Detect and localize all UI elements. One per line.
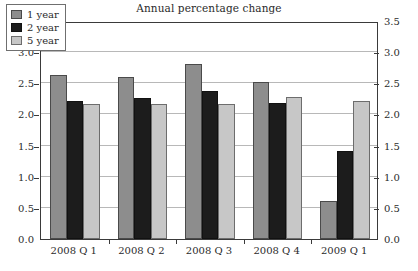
y-axis-tick-mark-right: [374, 84, 379, 85]
y-axis-tick-mark-left: [34, 147, 39, 148]
plot-top-border: [41, 22, 377, 23]
bar: [151, 104, 168, 239]
y-axis-tick-label-right: 2.0: [384, 110, 418, 120]
legend-item: 2 year: [11, 21, 59, 34]
plot-area: [40, 22, 378, 240]
legend-swatch-icon: [11, 10, 22, 19]
bar: [286, 97, 303, 239]
x-axis-category-label: 2008 Q 4: [243, 246, 311, 256]
gridline: [41, 82, 377, 83]
bar: [83, 104, 100, 239]
y-axis-tick-mark-left: [34, 209, 39, 210]
x-axis-tick-mark: [244, 239, 245, 244]
y-axis-tick-label-left: 0.5: [0, 204, 34, 214]
y-axis-tick-label-right: 0.0: [384, 235, 418, 245]
y-axis-tick-mark-right: [374, 115, 379, 116]
x-axis-category-label: 2008 Q 2: [108, 246, 176, 256]
legend-label: 1 year: [27, 10, 59, 20]
bar: [185, 64, 202, 239]
bar: [253, 82, 270, 239]
chart-legend: 1 year 2 year 5 year: [6, 4, 66, 51]
y-axis-tick-mark-left: [34, 115, 39, 116]
bar: [337, 151, 354, 239]
x-axis-category-label: 2009 Q 1: [310, 246, 378, 256]
bar: [202, 91, 219, 239]
gridline: [41, 51, 377, 52]
legend-label: 5 year: [27, 36, 59, 46]
legend-label: 2 year: [27, 23, 59, 33]
y-axis-tick-mark-right: [374, 147, 379, 148]
bar: [320, 201, 337, 239]
bar-chart: Annual percentage change 0.00.51.01.52.0…: [0, 0, 418, 271]
y-axis-tick-mark-right: [374, 209, 379, 210]
legend-swatch-icon: [11, 36, 22, 45]
x-axis-tick-mark: [311, 239, 312, 244]
y-axis-tick-label-left: 2.5: [0, 79, 34, 89]
y-axis-tick-mark-left: [34, 53, 39, 54]
x-axis-tick-mark: [176, 239, 177, 244]
legend-swatch-icon: [11, 23, 22, 32]
bar: [134, 98, 151, 239]
y-axis-tick-mark-right: [374, 53, 379, 54]
y-axis-tick-label-right: 0.5: [384, 204, 418, 214]
y-axis-tick-mark-right: [374, 178, 379, 179]
x-axis-tick-mark: [109, 239, 110, 244]
y-axis-tick-label-right: 2.5: [384, 79, 418, 89]
y-axis-tick-label-right: 3.5: [384, 17, 418, 27]
y-axis-tick-label-right: 1.5: [384, 142, 418, 152]
y-axis-tick-label-left: 1.0: [0, 173, 34, 183]
bar: [50, 75, 67, 239]
bar: [118, 77, 135, 239]
y-axis-tick-label-right: 3.0: [384, 48, 418, 58]
bar: [269, 103, 286, 239]
legend-item: 5 year: [11, 34, 59, 47]
y-axis-tick-mark-left: [34, 178, 39, 179]
bar: [218, 104, 235, 239]
x-axis-category-label: 2008 Q 3: [175, 246, 243, 256]
bar: [353, 101, 370, 239]
y-axis-tick-mark-left: [34, 84, 39, 85]
legend-item: 1 year: [11, 8, 59, 21]
x-axis-category-label: 2008 Q 1: [40, 246, 108, 256]
y-axis-tick-label-left: 2.0: [0, 110, 34, 120]
y-axis-tick-label-left: 1.5: [0, 142, 34, 152]
bar: [67, 101, 84, 239]
y-axis-tick-label-left: 0.0: [0, 235, 34, 245]
y-axis-tick-label-right: 1.0: [384, 173, 418, 183]
